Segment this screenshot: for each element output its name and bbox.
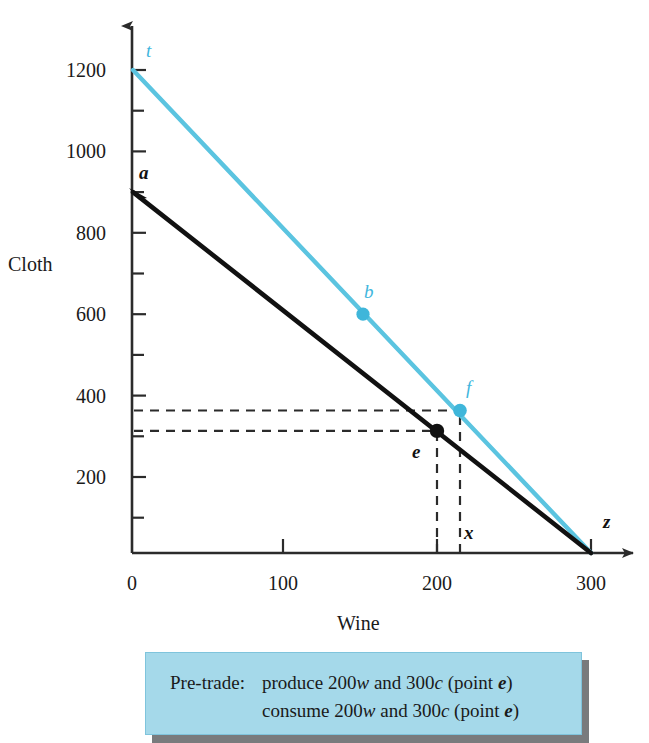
caption-line-1-w: w xyxy=(356,672,369,693)
autarky-line-a xyxy=(133,192,591,553)
caption-line-1-produce: produce 200 xyxy=(262,672,356,693)
caption-line-2-close: ) xyxy=(513,700,519,721)
y-tick-label-600: 600 xyxy=(28,303,106,326)
caption-line-1: Pre-trade:produce 200w and 300c (point e… xyxy=(170,669,519,697)
caption-line-1-and: and 300 xyxy=(369,672,434,693)
y-tick-label-1200: 1200 xyxy=(28,59,106,82)
point-label-f: f xyxy=(466,377,471,399)
x-tick-label-0: 0 xyxy=(127,572,137,595)
caption-box: Pre-trade:produce 200w and 300c (point e… xyxy=(145,652,582,735)
dashed-guides xyxy=(134,411,460,554)
x-axis-title: Wine xyxy=(337,612,380,635)
point-label-x: x xyxy=(464,522,474,544)
y-tick-label-200: 200 xyxy=(28,466,106,489)
caption-line-2-w: w xyxy=(363,700,376,721)
point-label-a: a xyxy=(139,162,149,184)
caption-text: Pre-trade:produce 200w and 300c (point e… xyxy=(170,669,519,724)
caption-line-2: consume 200w and 300c (point e) xyxy=(170,697,519,725)
caption-line-2-consume: consume 200 xyxy=(262,700,363,721)
point-label-z: z xyxy=(603,511,610,533)
point-label-t: t xyxy=(146,40,151,62)
trade-diagram-figure: 1200 1000 800 600 400 200 0 100 200 300 … xyxy=(0,0,649,743)
x-tick-label-100: 100 xyxy=(268,572,298,595)
x-tick-label-200: 200 xyxy=(422,572,452,595)
y-tick-label-1000: 1000 xyxy=(28,140,106,163)
caption-line-1-c: c xyxy=(435,672,443,693)
y-tick-label-800: 800 xyxy=(28,222,106,245)
y-axis-title: Cloth xyxy=(8,253,52,276)
point-label-b: b xyxy=(364,281,374,303)
caption-line-1-close: ) xyxy=(506,672,512,693)
caption-line-2-e: e xyxy=(504,700,512,721)
data-point-e xyxy=(430,424,444,438)
data-point-f xyxy=(453,404,467,418)
caption-line-2-and: and 300 xyxy=(375,700,440,721)
caption-line-1-point: (point xyxy=(443,672,498,693)
caption-line-2-point: (point xyxy=(449,700,504,721)
caption-line-1-lead: Pre-trade: xyxy=(170,669,262,697)
point-label-e: e xyxy=(412,441,420,463)
y-tick-label-400: 400 xyxy=(28,385,106,408)
data-point-b xyxy=(356,308,369,321)
x-tick-label-300: 300 xyxy=(576,572,606,595)
